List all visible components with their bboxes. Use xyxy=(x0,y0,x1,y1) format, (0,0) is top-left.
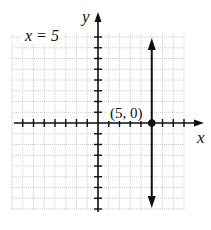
plot-line xyxy=(148,38,156,208)
equation-label: x = 5 xyxy=(24,27,59,44)
y-axis-label: y xyxy=(80,7,90,26)
x-axis-label: x xyxy=(196,128,205,147)
point-label: (5, 0) xyxy=(110,105,143,122)
coordinate-plane: x = 5 (5, 0) y x xyxy=(0,0,211,230)
